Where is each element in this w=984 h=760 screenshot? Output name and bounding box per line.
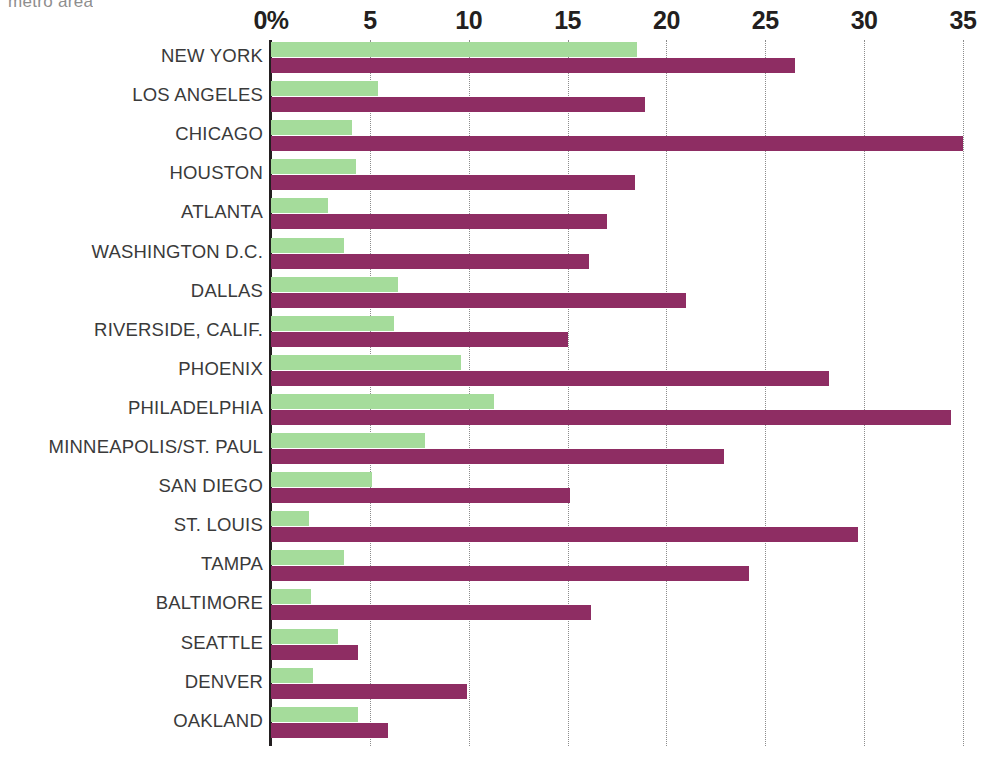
category-label: LOS ANGELES bbox=[0, 84, 271, 106]
tick-label-20: 20 bbox=[653, 6, 680, 35]
bar-green bbox=[271, 707, 358, 722]
bar-green bbox=[271, 42, 637, 57]
bar-purple bbox=[271, 410, 951, 425]
bar-purple bbox=[271, 332, 568, 347]
bar-green bbox=[271, 238, 344, 253]
bar-green bbox=[271, 316, 394, 331]
tick-label-10: 10 bbox=[455, 6, 482, 35]
bar-row: ATLANTA bbox=[0, 196, 984, 235]
category-label: HOUSTON bbox=[0, 162, 271, 184]
bar-purple bbox=[271, 293, 686, 308]
bar-green bbox=[271, 511, 309, 526]
bar-row: WASHINGTON D.C. bbox=[0, 236, 984, 275]
category-label: PHILADELPHIA bbox=[0, 397, 271, 419]
category-label: ST. LOUIS bbox=[0, 514, 271, 536]
bar-purple bbox=[271, 136, 963, 151]
category-label: OAKLAND bbox=[0, 710, 271, 732]
bar-row: TAMPA bbox=[0, 548, 984, 587]
bar-purple bbox=[271, 449, 724, 464]
bar-row: PHOENIX bbox=[0, 353, 984, 392]
category-label: NEW YORK bbox=[0, 45, 271, 67]
tick-label-5: 5 bbox=[363, 6, 376, 35]
bar-row: MINNEAPOLIS/ST. PAUL bbox=[0, 431, 984, 470]
category-label: SAN DIEGO bbox=[0, 475, 271, 497]
bar-row: RIVERSIDE, CALIF. bbox=[0, 314, 984, 353]
category-label: TAMPA bbox=[0, 553, 271, 575]
horizontal-bar-chart: 0%5101520253035 NEW YORKLOS ANGELESCHICA… bbox=[0, 0, 984, 760]
tick-label-35: 35 bbox=[950, 6, 977, 35]
category-label: MINNEAPOLIS/ST. PAUL bbox=[0, 436, 271, 458]
bar-green bbox=[271, 550, 344, 565]
bar-row: BALTIMORE bbox=[0, 587, 984, 626]
category-label: PHOENIX bbox=[0, 358, 271, 380]
category-label: SEATTLE bbox=[0, 632, 271, 654]
category-label: WASHINGTON D.C. bbox=[0, 241, 271, 263]
bar-row: SEATTLE bbox=[0, 627, 984, 666]
bar-green bbox=[271, 81, 378, 96]
bar-purple bbox=[271, 723, 388, 738]
bar-green bbox=[271, 629, 338, 644]
category-label: CHICAGO bbox=[0, 123, 271, 145]
bar-green bbox=[271, 159, 356, 174]
bar-row: SAN DIEGO bbox=[0, 470, 984, 509]
bar-purple bbox=[271, 645, 358, 660]
bar-green bbox=[271, 668, 313, 683]
bar-purple bbox=[271, 527, 858, 542]
bar-purple bbox=[271, 97, 645, 112]
bar-purple bbox=[271, 605, 591, 620]
category-label: RIVERSIDE, CALIF. bbox=[0, 319, 271, 341]
bar-row: PHILADELPHIA bbox=[0, 392, 984, 431]
tick-label-15: 15 bbox=[554, 6, 581, 35]
tick-label-25: 25 bbox=[752, 6, 779, 35]
bar-green bbox=[271, 394, 494, 409]
category-label: BALTIMORE bbox=[0, 592, 271, 614]
category-label: DALLAS bbox=[0, 280, 271, 302]
bar-row: DALLAS bbox=[0, 275, 984, 314]
bar-row: CHICAGO bbox=[0, 118, 984, 157]
bar-purple bbox=[271, 254, 589, 269]
bar-green bbox=[271, 120, 352, 135]
category-label: ATLANTA bbox=[0, 201, 271, 223]
bar-green bbox=[271, 472, 372, 487]
bar-purple bbox=[271, 175, 635, 190]
bar-row: OAKLAND bbox=[0, 705, 984, 744]
bar-row: NEW YORK bbox=[0, 40, 984, 79]
bar-purple bbox=[271, 214, 607, 229]
bar-row: ST. LOUIS bbox=[0, 509, 984, 548]
bar-purple bbox=[271, 371, 829, 386]
category-label: DENVER bbox=[0, 671, 271, 693]
bar-row: LOS ANGELES bbox=[0, 79, 984, 118]
bar-green bbox=[271, 198, 328, 213]
bar-purple bbox=[271, 684, 467, 699]
bar-green bbox=[271, 433, 425, 448]
bar-row: DENVER bbox=[0, 666, 984, 705]
bar-green bbox=[271, 277, 398, 292]
tick-label-30: 30 bbox=[851, 6, 878, 35]
tick-label-0: 0% bbox=[253, 6, 288, 35]
bar-green bbox=[271, 355, 461, 370]
bar-row: HOUSTON bbox=[0, 157, 984, 196]
bar-purple bbox=[271, 58, 795, 73]
bar-green bbox=[271, 589, 311, 604]
bar-purple bbox=[271, 488, 570, 503]
bar-purple bbox=[271, 566, 749, 581]
